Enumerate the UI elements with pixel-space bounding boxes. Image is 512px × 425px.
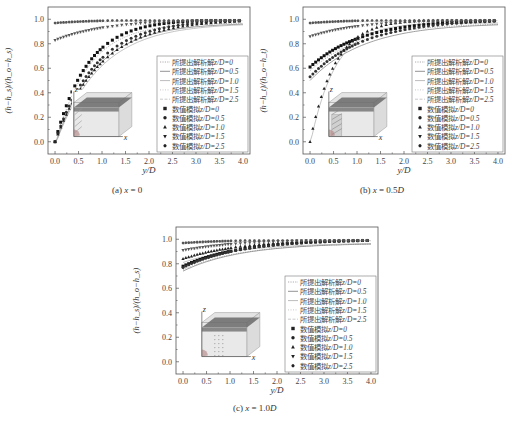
data-point-marker	[226, 246, 229, 249]
data-point-marker	[210, 255, 213, 258]
x-axis-label: y/D	[270, 385, 284, 395]
data-point-marker	[196, 260, 199, 263]
caption-value: = 1.0	[249, 403, 270, 413]
caption-unit: D	[270, 403, 277, 413]
data-point-marker	[212, 249, 215, 252]
y-tick-label: 0.2	[162, 333, 172, 342]
data-point-marker	[210, 250, 213, 253]
data-point-marker	[286, 239, 289, 242]
data-point-marker	[221, 247, 224, 250]
x-tick-label: 1.5	[249, 377, 259, 386]
legend-label: 数值模拟z/D=0	[300, 325, 347, 334]
legend-item: 所提出解析解z/D=0.5	[288, 287, 367, 296]
data-point-marker	[204, 251, 207, 254]
data-point-marker	[281, 239, 284, 242]
data-point-marker	[229, 243, 232, 246]
data-point-marker	[204, 246, 207, 249]
data-point-marker	[234, 243, 237, 246]
data-point-marker	[198, 246, 201, 249]
x-tick-label: 2.5	[295, 377, 305, 386]
legend-label: 所提出解析解z/D=0	[300, 278, 361, 287]
data-point-marker	[210, 245, 213, 248]
legend: 所提出解析解z/D=0所提出解析解z/D=0.5所提出解析解z/D=1.0所提出…	[285, 276, 376, 372]
data-point-marker	[193, 261, 196, 264]
legend-label: 所提出解析解z/D=2.5	[300, 315, 367, 324]
data-point-marker	[207, 250, 210, 253]
y-tick-label: 0.0	[162, 358, 172, 367]
data-point-marker	[226, 243, 229, 246]
data-point-marker	[181, 249, 184, 252]
data-point-marker	[234, 249, 237, 252]
numerical-points	[181, 239, 368, 269]
data-point-marker	[229, 246, 232, 249]
data-point-marker	[227, 251, 230, 254]
data-point-marker	[221, 252, 224, 255]
legend-label: 所提出解析解z/D=0.5	[300, 287, 367, 296]
data-point-marker	[215, 248, 218, 251]
data-point-marker	[201, 251, 204, 254]
y-tick-label: 0.8	[162, 260, 172, 269]
data-point-marker	[224, 251, 227, 254]
x-tick-label: 1.0	[225, 377, 235, 386]
inset-box-diagram: zx	[200, 305, 264, 362]
data-point-marker	[221, 244, 224, 247]
data-point-marker	[291, 239, 294, 242]
data-point-marker	[198, 259, 201, 262]
data-point-marker	[291, 336, 294, 339]
legend-item: 所提出解析解z/D=2.5	[288, 315, 367, 324]
data-point-marker	[218, 248, 221, 251]
data-point-marker	[182, 266, 185, 269]
data-point-marker	[201, 246, 204, 249]
y-axis: 0.00.20.40.60.81.0	[162, 235, 179, 367]
data-point-marker	[239, 242, 242, 245]
data-point-marker	[190, 262, 193, 265]
data-point-marker	[248, 247, 251, 250]
caption-prefix: (c)	[233, 403, 245, 413]
data-point-marker	[218, 253, 221, 256]
legend-item: 数值模拟z/D=1.5	[291, 352, 353, 361]
data-point-marker	[239, 245, 242, 248]
legend-label: 所提出解析解z/D=1.5	[300, 306, 367, 315]
data-point-marker	[201, 258, 204, 261]
data-point-marker	[187, 248, 190, 251]
data-point-marker	[295, 239, 298, 242]
chart-svg: 0.00.51.01.52.02.53.03.54.00.00.20.40.60…	[0, 0, 512, 425]
data-point-marker	[184, 249, 187, 252]
y-axis-label: (h−h_s)/(h_o−h_s)	[131, 267, 141, 333]
legend-label: 所提出解析解z/D=1.0	[300, 297, 367, 306]
legend-item: 数值模拟z/D=0	[291, 325, 347, 334]
legend-item: 数值模拟z/D=2.5	[291, 362, 352, 371]
data-point-marker	[181, 257, 184, 260]
data-point-marker	[204, 257, 207, 260]
data-point-marker	[224, 247, 227, 250]
legend-label: 数值模拟z/D=1.5	[300, 352, 353, 361]
data-point-marker	[213, 254, 216, 257]
data-point-marker	[258, 245, 261, 248]
x-tick-label: 0.5	[202, 377, 212, 386]
data-point-marker	[195, 253, 198, 256]
data-point-marker	[198, 252, 201, 255]
panel-caption: (c) x = 1.0D	[233, 403, 277, 413]
data-point-marker	[239, 248, 242, 251]
data-point-marker	[193, 254, 196, 257]
data-point-marker	[207, 256, 210, 259]
legend-label: 数值模拟z/D=1.0	[300, 343, 353, 352]
x-tick-label: 4.0	[366, 377, 376, 386]
data-point-marker	[229, 250, 232, 253]
data-point-marker	[234, 245, 237, 248]
inset-x-axis-label: x	[251, 353, 256, 362]
y-tick-label: 0.4	[162, 309, 172, 318]
data-point-marker	[253, 246, 256, 249]
y-tick-label: 1.0	[162, 235, 172, 244]
data-point-marker	[187, 263, 190, 266]
data-point-marker	[184, 265, 187, 268]
data-point-marker	[187, 255, 190, 258]
legend-label: 数值模拟z/D=2.5	[300, 362, 353, 371]
x-axis: 0.00.51.01.52.02.53.03.54.0	[178, 371, 376, 386]
data-point-marker	[190, 254, 193, 257]
data-point-marker	[244, 247, 247, 250]
legend-item: 所提出解析解z/D=1.0	[288, 297, 367, 306]
data-point-marker	[224, 243, 227, 246]
x-tick-label: 3.0	[319, 377, 329, 386]
data-point-marker	[215, 253, 218, 256]
